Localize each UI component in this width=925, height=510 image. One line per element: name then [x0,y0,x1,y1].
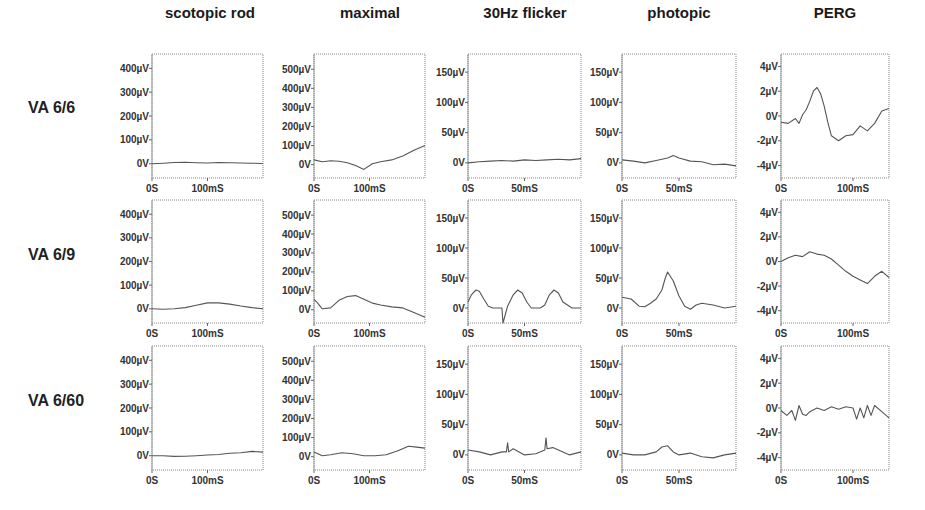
y-tick-label: 300µV [120,232,149,243]
y-tick-label: 200µV [282,121,311,132]
x-tick-label: 0S [616,328,629,339]
y-tick-label: -4µV [757,452,779,463]
y-tick-label: 150µV [590,67,619,78]
x-tick-label: 50mS [666,183,693,194]
y-tick-label: 0V [453,303,466,314]
erg-trace [622,446,736,458]
erg-trace [152,162,263,163]
y-tick-label: 100µV [120,280,149,291]
y-tick-label: 2µV [760,231,778,242]
x-tick-label: 100mS [353,183,386,194]
y-tick-label: 0V [607,157,620,168]
y-tick-label: 100µV [590,243,619,254]
y-tick-label: 300µV [282,102,311,113]
y-tick-label: 150µV [436,67,465,78]
panel-va-6-6-photopic: 0V50µV100µV150µV0S50mS [590,54,736,194]
x-tick-label: 0S [462,183,475,194]
y-tick-label: 200µV [282,266,311,277]
y-tick-label: 500µV [282,210,311,221]
y-tick-label: 200µV [120,403,149,414]
y-tick-label: 50µV [441,127,465,138]
panel-va-6-60-perg: -4µV-2µV0V2µV4µV0S100mS [757,346,889,486]
y-tick-label: -4µV [757,305,779,316]
erg-trace [622,156,736,166]
x-tick-label: 0S [775,328,788,339]
y-tick-label: 400µV [282,83,311,94]
plot-frame [622,54,736,178]
y-tick-label: 500µV [282,64,311,75]
panel-va-6-60-scotopic-rod: 0V100µV200µV300µV400µV0S100mS [120,346,263,486]
y-tick-label: -2µV [757,427,779,438]
x-tick-label: 100mS [837,328,870,339]
panel-va-6-6-30hz-flicker: 0V50µV100µV150µV0S50mS [436,54,581,194]
y-tick-label: 400µV [120,209,149,220]
x-tick-label: 0S [146,183,159,194]
y-tick-label: 0V [299,159,312,170]
x-tick-label: 0S [308,183,321,194]
plot-frame [314,200,425,323]
y-tick-label: 0V [137,303,150,314]
panel-va-6-9-scotopic-rod: 0V100µV200µV300µV400µV0S100mS [120,200,263,339]
panel-va-6-60-photopic: 0V50µV100µV150µV0S50mS [590,346,736,486]
y-tick-label: 300µV [120,87,149,98]
x-tick-label: 0S [308,328,321,339]
y-tick-label: 4µV [760,61,778,72]
x-tick-label: 0S [146,475,159,486]
panel-va-6-9-30hz-flicker: 0V50µV100µV150µV0S50mS [436,200,581,339]
x-tick-label: 0S [462,328,475,339]
x-tick-label: 0S [146,328,159,339]
x-tick-label: 0S [616,183,629,194]
y-tick-label: 50µV [441,273,465,284]
erg-panel-grid: 0V100µV200µV300µV400µV0S100mS0V100µV200µ… [0,0,925,510]
y-tick-label: 100µV [120,426,149,437]
x-tick-label: 50mS [511,183,538,194]
x-tick-label: 0S [462,475,475,486]
y-tick-label: 0V [137,450,150,461]
x-tick-label: 0S [775,183,788,194]
y-tick-label: 400µV [120,355,149,366]
y-tick-label: 100µV [282,432,311,443]
y-tick-label: 400µV [120,63,149,74]
y-tick-label: 100µV [590,389,619,400]
panel-va-6-9-maximal: 0V100µV200µV300µV400µV500µV0S100mS [282,200,425,339]
y-tick-label: 100µV [436,97,465,108]
panel-va-6-60-30hz-flicker: 0V50µV100µV150µV0S50mS [436,346,581,486]
y-tick-label: 0V [607,449,620,460]
y-tick-label: 4µV [760,207,778,218]
x-tick-label: 100mS [191,183,224,194]
y-tick-label: 150µV [436,359,465,370]
y-tick-label: 50µV [441,419,465,430]
erg-trace [314,446,425,456]
erg-trace [468,159,581,163]
erg-trace [781,88,889,141]
panel-va-6-9-photopic: 0V50µV100µV150µV0S50mS [590,200,736,339]
y-tick-label: 100µV [282,140,311,151]
panel-va-6-6-maximal: 0V100µV200µV300µV400µV500µV0S100mS [282,54,425,194]
plot-frame [152,200,263,323]
x-tick-label: 0S [775,475,788,486]
x-tick-label: 100mS [191,475,224,486]
y-tick-label: 0V [299,304,312,315]
erg-trace [314,146,425,170]
x-tick-label: 50mS [666,328,693,339]
y-tick-label: 0V [137,158,150,169]
y-tick-label: 4µV [760,353,778,364]
x-tick-label: 50mS [511,475,538,486]
y-tick-label: -2µV [757,135,779,146]
y-tick-label: -2µV [757,281,779,292]
erg-trace [468,290,581,323]
y-tick-label: 400µV [282,229,311,240]
y-tick-label: 50µV [595,419,619,430]
y-tick-label: 0V [766,403,779,414]
erg-trace [781,252,889,284]
y-tick-label: 2µV [760,378,778,389]
x-tick-label: 100mS [191,328,224,339]
panel-va-6-6-perg: -4µV-2µV0V2µV4µV0S100mS [757,54,889,194]
panel-va-6-6-scotopic-rod: 0V100µV200µV300µV400µV0S100mS [120,54,263,194]
y-tick-label: 200µV [120,256,149,267]
x-tick-label: 100mS [353,328,386,339]
y-tick-label: 2µV [760,86,778,97]
x-tick-label: 0S [616,475,629,486]
plot-frame [152,54,263,178]
y-tick-label: 0V [766,256,779,267]
